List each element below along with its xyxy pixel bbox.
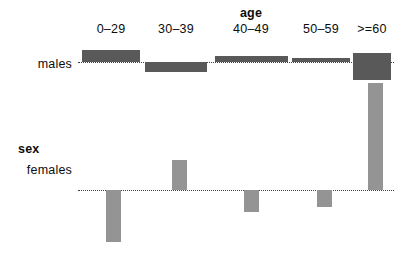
association-plot: age 0–29 30–39 40–49 50–59 >=60 males se… bbox=[0, 0, 398, 253]
column-label-age-60-plus: >=60 bbox=[357, 22, 386, 36]
column-label-age-50-59: 50–59 bbox=[303, 22, 339, 36]
bar-males-40-49 bbox=[215, 56, 288, 62]
bar-males-0-29 bbox=[82, 50, 140, 62]
bar-females-40-49 bbox=[244, 190, 259, 212]
bar-females-50-59 bbox=[317, 190, 332, 207]
column-label-age-40-49: 40–49 bbox=[233, 22, 269, 36]
bar-females-60-plus bbox=[368, 83, 383, 190]
x-variable-title: age bbox=[240, 6, 262, 20]
bar-males-30-39 bbox=[145, 62, 207, 72]
row-label-females: females bbox=[0, 163, 72, 177]
bar-males-50-59 bbox=[292, 58, 350, 62]
row-label-males: males bbox=[0, 57, 72, 71]
bar-males-60-plus bbox=[353, 53, 391, 80]
baseline-females bbox=[78, 190, 394, 191]
column-label-age-30-39: 30–39 bbox=[158, 22, 194, 36]
bar-females-30-39 bbox=[172, 160, 187, 190]
baseline-males bbox=[78, 62, 394, 63]
bar-females-0-29 bbox=[106, 190, 121, 242]
y-variable-title: sex bbox=[18, 142, 39, 156]
column-label-age-0-29: 0–29 bbox=[97, 22, 126, 36]
